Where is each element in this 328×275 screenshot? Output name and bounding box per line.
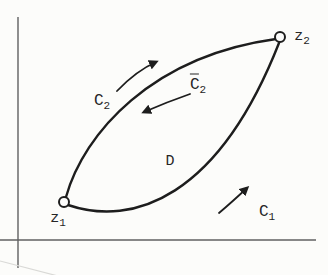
label-z1-base: z [50, 210, 59, 227]
label-z2: z2 [294, 29, 310, 47]
label-z1-subscript: 1 [59, 217, 66, 229]
label-c2: C2 [94, 93, 110, 112]
label-region-d: D [165, 154, 174, 169]
label-z2-base: z [294, 28, 303, 45]
c2bar-direction-arrow [144, 94, 190, 112]
c1-direction-arrow [219, 188, 247, 213]
contour-diagram-svg [0, 0, 328, 275]
label-z2-subscript: 2 [303, 35, 310, 47]
label-c1-subscript: 1 [269, 211, 276, 223]
label-c2-base: C [94, 92, 104, 110]
label-c2-subscript: 2 [104, 100, 111, 112]
scan-artifact-line [0, 261, 58, 275]
label-c1: C1 [259, 204, 275, 223]
curve-c1-lower [68, 43, 279, 212]
label-c2-bar-subscript: 2 [200, 84, 207, 96]
curve-c2-upper [66, 39, 276, 197]
contour-figure: C2 C2 D C1 z1 z2 [0, 0, 328, 275]
label-c2-bar-base: C [190, 77, 200, 93]
point-z2-marker [275, 32, 285, 42]
label-z1: z1 [50, 211, 66, 229]
label-c1-base: C [259, 203, 269, 221]
label-c2-bar: C2 [190, 77, 206, 96]
point-z1-marker [59, 197, 69, 207]
